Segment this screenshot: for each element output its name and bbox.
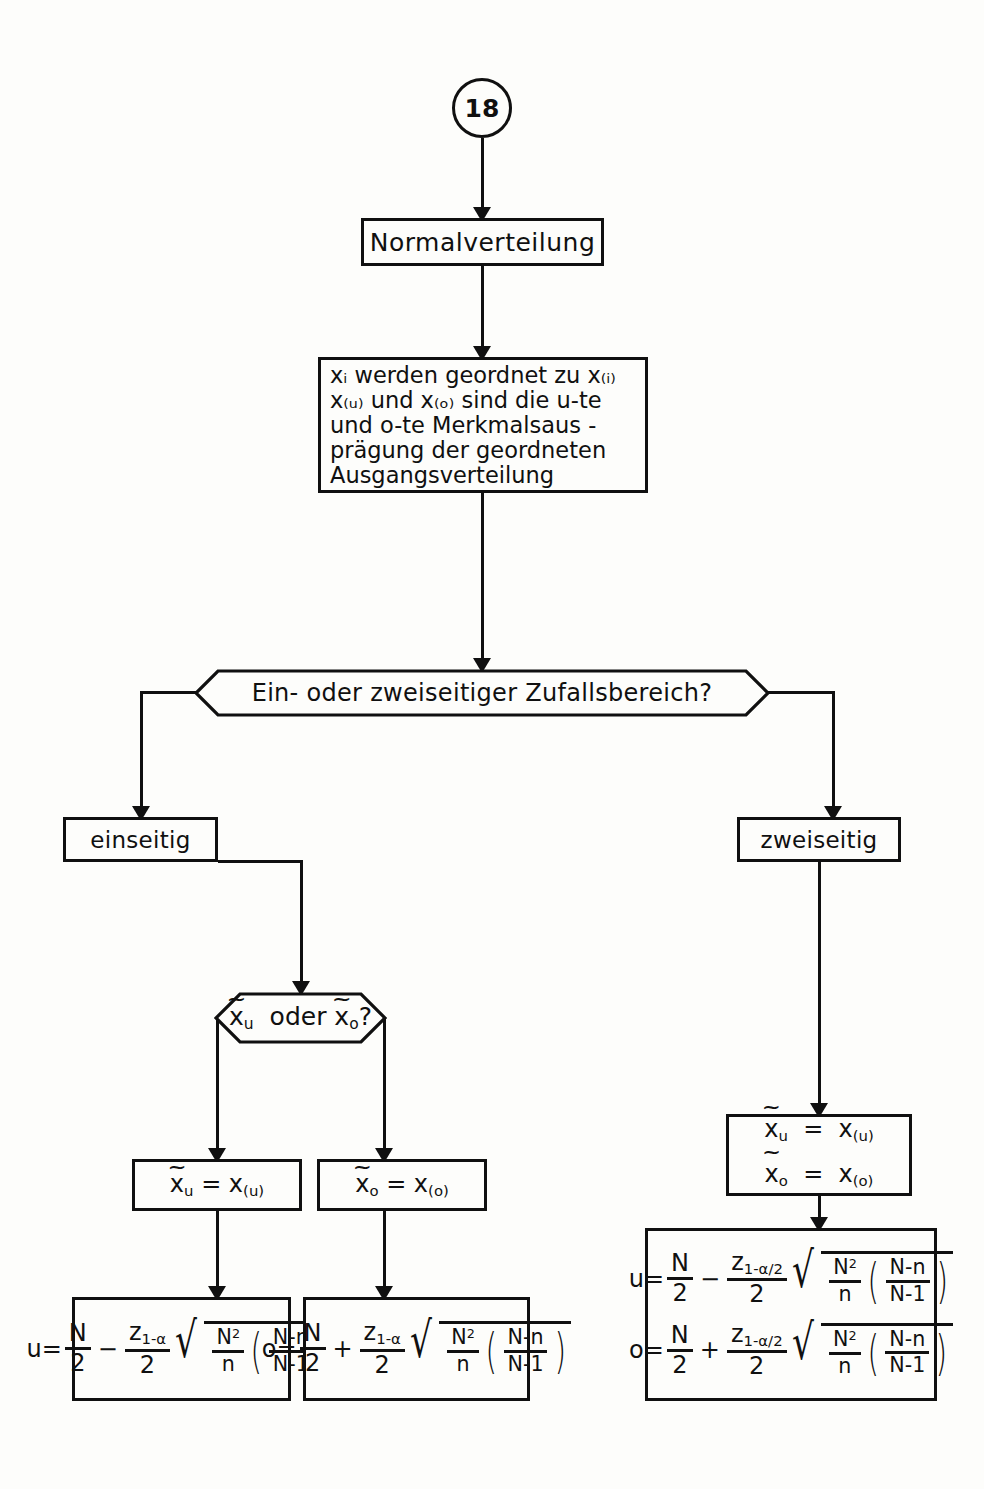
formula-middle-op: + [333, 1335, 353, 1363]
connector-assign-xu-to-formula [216, 1211, 219, 1297]
connector-decision1-left-h [140, 691, 196, 694]
node-formula-middle: o= N 2 + z1-α 2 √ N2 n ( N-n [303, 1297, 530, 1401]
description-line-2: x₍ᵤ₎ und x₍ₒ₎ sind die u-te [330, 388, 616, 413]
decision-1-shape [194, 669, 770, 717]
connector-circle-to-start [481, 138, 484, 216]
formula-right-o-expression: o= N 2 + z1-α/2 2 √ N2 n ( N-n [629, 1321, 953, 1381]
connector-assign-xo-to-formula [383, 1211, 386, 1297]
connector-description-to-decision1 [481, 493, 484, 669]
formula-left-lhs: u= [26, 1335, 61, 1363]
page-connector-label: 18 [465, 94, 500, 123]
node-description-text: xᵢ werden geordnet zu x₍ᵢ₎ x₍ᵤ₎ und x₍ₒ₎… [321, 359, 625, 492]
sqrt-group: √ N2 n ( N-n N-1 ) [792, 1323, 953, 1379]
frac-Nsq-over-n: N2 n [829, 1256, 861, 1307]
frac-Nsq-over-n: N2 n [829, 1328, 861, 1379]
node-description: xᵢ werden geordnet zu x₍ᵢ₎ x₍ᵤ₎ und x₍ₒ₎… [318, 357, 648, 493]
paren-open: ( [251, 1332, 263, 1370]
sqrt-group: √ N2 n ( N-n N-1 ) [410, 1321, 571, 1377]
node-normalverteilung: Normalverteilung [361, 218, 604, 266]
radical-sign: √ [410, 1321, 432, 1377]
radical-sign: √ [175, 1321, 197, 1377]
formula-right-o-op: + [700, 1336, 720, 1364]
paren-open: ( [867, 1334, 879, 1372]
frac-Nminusn-over-Nminus1: N-n N-1 [885, 1328, 929, 1378]
node-assign-xu-label: ~xu = x(u) [170, 1170, 264, 1200]
node-formula-right: u= N 2 − z1-α/2 2 √ N2 n ( N-n [645, 1228, 937, 1401]
decision-xu-oder-xo: ~xu oder ~xo? [214, 992, 387, 1044]
description-line-1: xᵢ werden geordnet zu x₍ᵢ₎ [330, 363, 616, 388]
paren-open: ( [485, 1332, 497, 1370]
radical-sign: √ [792, 1251, 814, 1307]
assign-both-line-2: ~xo = x(o) [764, 1155, 874, 1200]
formula-left-op: − [98, 1335, 118, 1363]
frac-Nsq-over-n: N2 n [447, 1326, 479, 1377]
frac-Nminusn-over-Nminus1: N-n N-1 [504, 1326, 548, 1376]
connector-zweiseitig-to-assign-both [818, 862, 821, 1114]
description-line-4: prägung der geordneten [330, 438, 616, 463]
connector-einseitig-h [218, 860, 303, 863]
connector-decision1-right-v [832, 691, 835, 817]
paren-close: ) [936, 1262, 948, 1300]
paren-close: ) [936, 1334, 948, 1372]
description-line-3: und o-te Merkmalsaus - [330, 413, 616, 438]
frac-z-over-2: z1-α 2 [360, 1319, 405, 1379]
frac-N-over-2: N 2 [667, 1322, 693, 1379]
frac-N-over-2: N 2 [65, 1320, 91, 1377]
formula-middle-lhs: o= [262, 1335, 297, 1363]
frac-N-over-2: N 2 [300, 1320, 326, 1377]
decision-2-shape [214, 992, 387, 1044]
node-assign-xu: ~xu = x(u) [132, 1159, 302, 1211]
frac-Nsq-over-n: N2 n [212, 1326, 244, 1377]
node-assign-xo-label: ~xo = x(o) [355, 1170, 449, 1200]
radical-sign: √ [792, 1323, 814, 1379]
frac-z-half-over-2: z1-α/2 2 [727, 1249, 787, 1309]
frac-Nminusn-over-Nminus1: N-n N-1 [886, 1256, 930, 1306]
paren-close: ) [554, 1332, 566, 1370]
paren-open: ( [867, 1262, 879, 1300]
node-einseitig: einseitig [63, 817, 218, 862]
node-einseitig-label: einseitig [90, 827, 190, 853]
node-normalverteilung-label: Normalverteilung [370, 228, 596, 257]
formula-middle-expression: o= N 2 + z1-α 2 √ N2 n ( N-n [262, 1319, 572, 1379]
formula-right-u-expression: u= N 2 − z1-α/2 2 √ N2 n ( N-n [629, 1249, 954, 1309]
flowchart-page: 18 Normalverteilung xᵢ werden geordnet z… [0, 0, 984, 1489]
decision-ein-oder-zweiseitig: Ein- oder zweiseitiger Zufallsbereich? [194, 669, 770, 717]
node-assign-both-label: ~xu = x(u) ~xo = x(o) [764, 1110, 874, 1200]
frac-N-over-2: N 2 [667, 1250, 693, 1307]
node-zweiseitig-label: zweiseitig [761, 827, 878, 853]
connector-start-to-description [481, 266, 484, 358]
node-zweiseitig: zweiseitig [737, 817, 901, 862]
node-formula-left: u= N 2 − z1-α 2 √ N2 n ( N-n [72, 1297, 291, 1401]
formula-right-u-op: − [700, 1265, 720, 1293]
frac-z-half-over-2: z1-α/2 2 [727, 1321, 787, 1381]
connector-decision1-right-h [768, 691, 835, 694]
frac-z-over-2: z1-α 2 [125, 1319, 170, 1379]
node-assign-both: ~xu = x(u) ~xo = x(o) [726, 1114, 912, 1196]
node-assign-xo: ~xo = x(o) [317, 1159, 487, 1211]
description-line-5: Ausgangsverteilung [330, 463, 616, 488]
formula-right-u-lhs: u= [629, 1265, 664, 1293]
formula-right-o-lhs: o= [629, 1336, 664, 1364]
page-connector-circle: 18 [452, 78, 512, 138]
sqrt-group: √ N2 n ( N-n N-1 ) [792, 1251, 953, 1307]
connector-decision1-left-v [140, 691, 143, 817]
connector-einseitig-v [300, 860, 303, 991]
